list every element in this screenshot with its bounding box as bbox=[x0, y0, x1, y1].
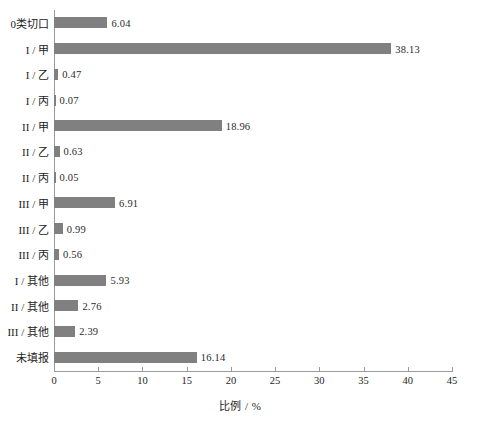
bar-row: 0.07 bbox=[54, 95, 452, 106]
bar-row: 6.04 bbox=[54, 17, 452, 28]
bar-value-label: 2.39 bbox=[75, 326, 98, 337]
bar-row: 18.96 bbox=[54, 120, 452, 131]
x-axis-tick bbox=[98, 367, 99, 371]
x-axis-tick bbox=[319, 367, 320, 371]
bar bbox=[54, 197, 115, 208]
bar-row: 2.39 bbox=[54, 326, 452, 337]
bar bbox=[54, 352, 197, 363]
bar-row: 2.76 bbox=[54, 300, 452, 311]
y-axis-category-label: III / 丙 bbox=[0, 246, 54, 262]
bar-value-label: 6.91 bbox=[115, 197, 138, 208]
bar bbox=[54, 223, 63, 234]
y-axis-category-label: III / 其他 bbox=[0, 323, 54, 339]
y-axis-category-label: III / 甲 bbox=[0, 195, 54, 211]
x-axis-tick-label: 40 bbox=[403, 375, 414, 386]
bar-value-label: 0.63 bbox=[60, 146, 83, 157]
y-axis-category-label: II / 甲 bbox=[0, 118, 54, 134]
y-axis-category-label: I / 丙 bbox=[0, 92, 54, 108]
bar-value-label: 16.14 bbox=[197, 352, 226, 363]
x-axis-tick-label: 30 bbox=[314, 375, 325, 386]
bar-value-label: 2.76 bbox=[78, 300, 101, 311]
x-axis-tick-label: 0 bbox=[51, 375, 56, 386]
x-axis-tick bbox=[452, 367, 453, 371]
x-axis-tick-label: 20 bbox=[226, 375, 237, 386]
y-axis-category-label: II / 其他 bbox=[0, 298, 54, 314]
y-axis-category-label: I / 乙 bbox=[0, 66, 54, 82]
x-axis-tick-label: 10 bbox=[137, 375, 148, 386]
bar-value-label: 6.04 bbox=[107, 17, 130, 28]
bar bbox=[54, 300, 78, 311]
x-axis-tick bbox=[54, 367, 55, 371]
x-axis-tick bbox=[231, 367, 232, 371]
x-axis-tick-label: 5 bbox=[96, 375, 101, 386]
x-axis-tick bbox=[142, 367, 143, 371]
bar-row: 0.56 bbox=[54, 249, 452, 260]
x-axis-tick bbox=[364, 367, 365, 371]
x-axis-tick-label: 25 bbox=[270, 375, 281, 386]
bar-value-label: 0.99 bbox=[63, 223, 86, 234]
bar-value-label: 5.93 bbox=[106, 275, 129, 286]
bar-row: 0.47 bbox=[54, 69, 452, 80]
y-axis-category-label: II / 丙 bbox=[0, 169, 54, 185]
y-axis-category-label: 0类切口 bbox=[0, 15, 54, 31]
bar-row: 0.05 bbox=[54, 172, 452, 183]
x-axis-tick bbox=[187, 367, 188, 371]
x-axis-tick bbox=[408, 367, 409, 371]
x-axis-line bbox=[54, 371, 453, 372]
y-axis-category-label: III / 乙 bbox=[0, 221, 54, 237]
bar-row: 5.93 bbox=[54, 275, 452, 286]
bar bbox=[54, 17, 107, 28]
bar bbox=[54, 326, 75, 337]
bar-row: 0.99 bbox=[54, 223, 452, 234]
bar-value-label: 0.05 bbox=[56, 172, 79, 183]
x-axis-title: 比例 / % bbox=[0, 397, 480, 413]
bar-chart: 0类切口I / 甲I / 乙I / 丙II / 甲II / 乙II / 丙III… bbox=[0, 0, 480, 425]
y-axis-category-label: I / 其他 bbox=[0, 272, 54, 288]
bar bbox=[54, 275, 106, 286]
plot-area: 6.0438.130.470.0718.960.630.056.910.990.… bbox=[54, 10, 452, 370]
y-axis-category-labels: 0类切口I / 甲I / 乙I / 丙II / 甲II / 乙II / 丙III… bbox=[0, 0, 54, 425]
bar-row: 38.13 bbox=[54, 43, 452, 54]
y-axis-category-label: II / 乙 bbox=[0, 143, 54, 159]
bar-row: 16.14 bbox=[54, 352, 452, 363]
bar-value-label: 0.56 bbox=[59, 249, 82, 260]
bar-value-label: 0.07 bbox=[56, 95, 79, 106]
bar bbox=[54, 43, 391, 54]
bar-row: 6.91 bbox=[54, 197, 452, 208]
bar-row: 0.63 bbox=[54, 146, 452, 157]
x-axis-tick-label: 45 bbox=[447, 375, 458, 386]
bar-value-label: 18.96 bbox=[222, 120, 251, 131]
bar-value-label: 38.13 bbox=[391, 43, 420, 54]
x-axis-tick-label: 35 bbox=[358, 375, 369, 386]
y-axis-category-label: 未填报 bbox=[0, 349, 54, 365]
bar-value-label: 0.47 bbox=[58, 69, 81, 80]
bar bbox=[54, 120, 222, 131]
x-axis-tick-label: 15 bbox=[181, 375, 192, 386]
y-axis-category-label: I / 甲 bbox=[0, 41, 54, 57]
x-axis-tick bbox=[275, 367, 276, 371]
